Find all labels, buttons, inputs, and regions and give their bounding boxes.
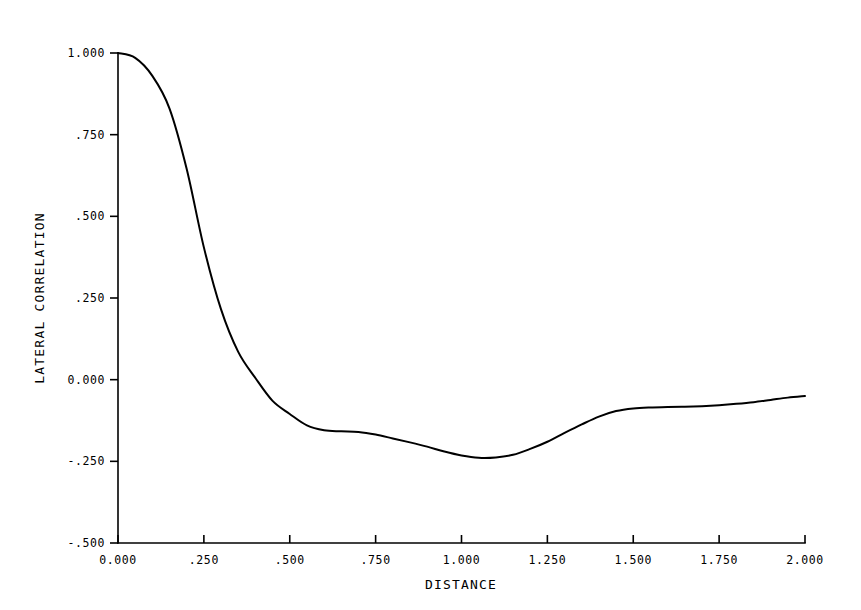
x-tick-label: 2.000 bbox=[786, 553, 824, 567]
chart-figure: 1.000.750.500.2500.000-.250-.500 0.000.2… bbox=[0, 0, 861, 610]
x-tick-label: .500 bbox=[275, 553, 305, 567]
x-tick-label: 1.750 bbox=[700, 553, 738, 567]
x-tick-label: 1.000 bbox=[443, 553, 481, 567]
y-tick-label: .500 bbox=[75, 209, 105, 223]
x-tick-label: .250 bbox=[189, 553, 219, 567]
lateral-correlation-line-chart: 1.000.750.500.2500.000-.250-.500 0.000.2… bbox=[0, 0, 861, 610]
x-tick-label: 0.000 bbox=[99, 553, 137, 567]
y-tick-label: -.250 bbox=[67, 454, 105, 468]
x-axis-title: DISTANCE bbox=[425, 577, 497, 592]
y-tick-label: 1.000 bbox=[67, 46, 105, 60]
y-tick-label: .750 bbox=[75, 128, 105, 142]
x-tick-label: .750 bbox=[361, 553, 391, 567]
y-tick-label: .250 bbox=[75, 291, 105, 305]
y-tick-label: -.500 bbox=[67, 536, 105, 550]
chart-background bbox=[0, 0, 861, 610]
y-axis-title: LATERAL CORRELATION bbox=[32, 212, 47, 384]
x-tick-label: 1.250 bbox=[529, 553, 567, 567]
y-tick-label: 0.000 bbox=[67, 373, 105, 387]
x-tick-label: 1.500 bbox=[614, 553, 652, 567]
